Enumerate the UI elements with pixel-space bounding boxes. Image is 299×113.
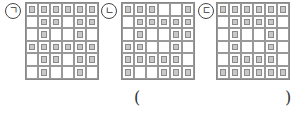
filled-cell: [74, 66, 86, 79]
empty-cell: [158, 3, 170, 16]
empty-cell: [50, 28, 62, 41]
empty-cell: [158, 28, 170, 41]
filled-cell: [74, 3, 86, 16]
filled-cell: [277, 66, 289, 79]
filled-cell: [62, 41, 74, 54]
empty-cell: [26, 16, 38, 29]
empty-cell: [26, 53, 38, 66]
filled-cell: [146, 53, 158, 66]
filled-cell: [38, 3, 50, 16]
filled-cell: [74, 41, 86, 54]
filled-cell: [241, 3, 253, 16]
empty-cell: [146, 28, 158, 41]
answer-paren-close: ): [285, 88, 291, 107]
filled-cell: [229, 28, 241, 41]
filled-cell: [217, 66, 229, 79]
filled-cell: [182, 28, 194, 41]
filled-cell: [122, 66, 134, 79]
filled-cell: [38, 16, 50, 29]
empty-cell: [182, 41, 194, 54]
filled-cell: [86, 16, 98, 29]
filled-cell: [134, 53, 146, 66]
empty-cell: [217, 41, 229, 54]
filled-cell: [50, 41, 62, 54]
filled-cell: [265, 66, 277, 79]
empty-cell: [217, 53, 229, 66]
filled-cell: [241, 53, 253, 66]
filled-cell: [265, 16, 277, 29]
filled-cell: [86, 41, 98, 54]
filled-cell: [229, 53, 241, 66]
filled-cell: [241, 16, 253, 29]
filled-cell: [170, 41, 182, 54]
filled-cell: [86, 53, 98, 66]
filled-cell: [241, 66, 253, 79]
filled-cell: [62, 3, 74, 16]
empty-cell: [86, 66, 98, 79]
filled-cell: [50, 53, 62, 66]
empty-cell: [50, 66, 62, 79]
empty-cell: [217, 16, 229, 29]
filled-cell: [26, 3, 38, 16]
filled-cell: [265, 28, 277, 41]
filled-cell: [146, 3, 158, 16]
filled-cell: [74, 53, 86, 66]
empty-cell: [182, 53, 194, 66]
figure-label-a: ㄱ: [5, 3, 21, 19]
filled-cell: [170, 16, 182, 29]
filled-cell: [277, 3, 289, 16]
filled-cell: [146, 16, 158, 29]
filled-cell: [38, 41, 50, 54]
filled-cell: [86, 3, 98, 16]
filled-cell: [229, 3, 241, 16]
filled-cell: [182, 3, 194, 16]
empty-cell: [122, 16, 134, 29]
filled-cell: [134, 41, 146, 54]
empty-cell: [62, 28, 74, 41]
filled-cell: [182, 66, 194, 79]
empty-cell: [158, 41, 170, 54]
empty-cell: [170, 3, 182, 16]
filled-cell: [182, 16, 194, 29]
grid-figure-a: [25, 2, 99, 80]
filled-cell: [265, 41, 277, 54]
filled-cell: [253, 66, 265, 79]
empty-cell: [26, 66, 38, 79]
filled-cell: [217, 3, 229, 16]
filled-cell: [134, 28, 146, 41]
empty-cell: [26, 28, 38, 41]
filled-cell: [170, 28, 182, 41]
filled-cell: [26, 41, 38, 54]
empty-cell: [277, 28, 289, 41]
filled-cell: [38, 53, 50, 66]
filled-cell: [170, 53, 182, 66]
empty-cell: [253, 41, 265, 54]
empty-cell: [62, 16, 74, 29]
filled-cell: [253, 53, 265, 66]
filled-cell: [74, 16, 86, 29]
empty-cell: [277, 53, 289, 66]
filled-cell: [229, 41, 241, 54]
empty-cell: [146, 66, 158, 79]
filled-cell: [122, 53, 134, 66]
grid-figure-c: [216, 2, 290, 80]
answer-paren-open: (: [134, 88, 140, 107]
filled-cell: [134, 3, 146, 16]
filled-cell: [229, 66, 241, 79]
empty-cell: [217, 28, 229, 41]
filled-cell: [122, 41, 134, 54]
empty-cell: [134, 66, 146, 79]
filled-cell: [158, 53, 170, 66]
filled-cell: [50, 3, 62, 16]
empty-cell: [62, 53, 74, 66]
empty-cell: [241, 28, 253, 41]
empty-cell: [62, 66, 74, 79]
filled-cell: [122, 3, 134, 16]
filled-cell: [265, 53, 277, 66]
empty-cell: [277, 16, 289, 29]
filled-cell: [38, 28, 50, 41]
answer-blank[interactable]: [145, 90, 280, 106]
filled-cell: [158, 66, 170, 79]
figure-label-b: ㄴ: [101, 3, 117, 19]
empty-cell: [146, 41, 158, 54]
